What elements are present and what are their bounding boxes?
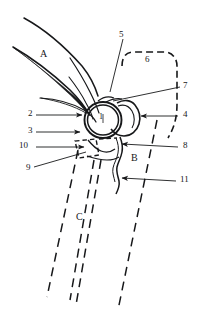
region-label-b: B xyxy=(131,153,138,163)
callout-label-4: 4 xyxy=(183,110,188,119)
leader-7 xyxy=(113,87,180,101)
callout-label-7: 7 xyxy=(183,81,188,90)
dashed-ray-3 xyxy=(76,160,101,305)
central-ring xyxy=(85,102,122,138)
figure-drawing xyxy=(0,0,197,315)
callout-label-1: 1 xyxy=(99,113,103,121)
callout-label-5: 5 xyxy=(119,30,124,39)
callout-label-11: 11 xyxy=(180,175,189,184)
callout-label-8: 8 xyxy=(183,141,188,150)
dashed-rays xyxy=(47,120,157,310)
callout-label-6: 6 xyxy=(145,55,150,64)
leader-11 xyxy=(122,178,176,181)
region-label-a: A xyxy=(40,49,47,59)
leader-8 xyxy=(122,144,178,147)
callout-label-3: 3 xyxy=(28,126,33,135)
callout-label-2: 2 xyxy=(28,109,33,118)
dashed-ray-4 xyxy=(118,120,157,310)
leader-5 xyxy=(110,39,123,92)
structure-a-lines xyxy=(13,18,99,122)
dashed-outline-6 xyxy=(122,52,177,138)
callout-label-10: 10 xyxy=(19,141,28,150)
region-label-c: C xyxy=(76,212,83,222)
callout-label-9: 9 xyxy=(26,163,31,172)
technical-figure: 1 A B C 2 3 5 6 7 4 8 9 10 11 xyxy=(0,0,197,315)
dashed-ray-2 xyxy=(70,160,94,300)
leader-9 xyxy=(34,152,86,167)
dashed-ray-1 xyxy=(47,150,78,297)
